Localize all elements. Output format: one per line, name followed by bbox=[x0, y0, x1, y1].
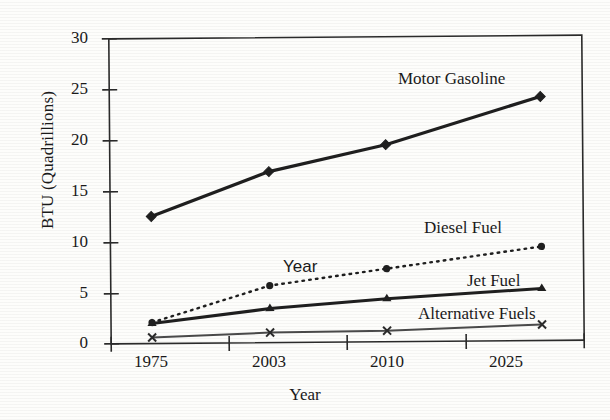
series-label-jet-fuel: Jet Fuel bbox=[467, 272, 520, 289]
stray-year-annotation: Year bbox=[283, 258, 317, 275]
y-tick-label-25: 25 bbox=[42, 80, 88, 97]
series-motor-gasoline bbox=[145, 91, 546, 221]
x-tick-label-2010: 2010 bbox=[347, 352, 427, 372]
y-tick-label-10: 10 bbox=[42, 233, 88, 250]
x-tick-label-2025: 2025 bbox=[466, 352, 546, 372]
x-tick-label-2003: 2003 bbox=[229, 352, 309, 372]
chart-canvas: BTU (Quadrillions) 30 25 20 15 10 5 0 19… bbox=[0, 0, 610, 420]
series-label-alternative-fuels: Alternative Fuels bbox=[418, 305, 536, 322]
y-tick-label-0: 0 bbox=[42, 334, 88, 351]
y-tick-label-5: 5 bbox=[42, 284, 88, 301]
plot-frame bbox=[109, 35, 584, 344]
x-tick-label-1975: 1975 bbox=[111, 352, 191, 372]
y-tick-label-15: 15 bbox=[42, 182, 88, 199]
x-axis-title: Year bbox=[0, 385, 610, 405]
series-label-diesel-fuel: Diesel Fuel bbox=[424, 219, 502, 236]
y-tick-label-30: 30 bbox=[42, 29, 88, 46]
series-label-motor-gasoline: Motor Gasoline bbox=[398, 70, 505, 87]
y-tick-label-20: 20 bbox=[42, 131, 88, 148]
